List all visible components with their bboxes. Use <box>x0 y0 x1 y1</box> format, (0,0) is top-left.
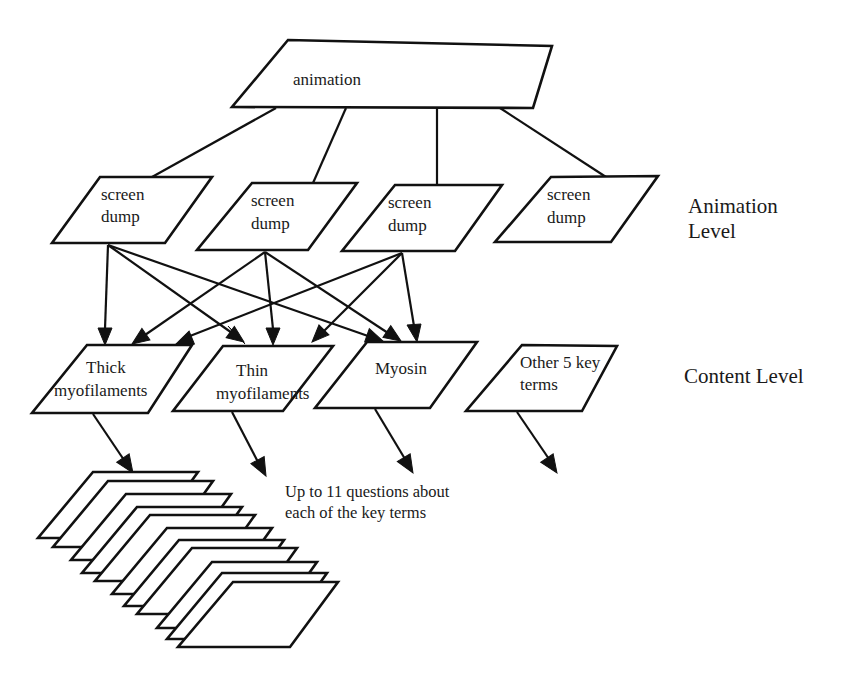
screen-dump-label-line2: dump <box>251 214 290 233</box>
question-arrows <box>93 409 563 480</box>
edge-sd3-thin <box>324 253 402 331</box>
content-node-label-line1: Thin <box>236 361 269 380</box>
edge-root-sd2 <box>313 108 346 183</box>
screen-dump-label-line2: dump <box>547 208 586 227</box>
arrowhead-icon <box>251 457 273 480</box>
content-node-thin-myofilaments[interactable]: Thin myofilaments <box>173 346 333 411</box>
edge-thick-questions <box>93 414 124 460</box>
root-node-label: animation <box>293 70 361 89</box>
content-node-other-key-terms[interactable]: Other 5 key terms <box>466 345 617 411</box>
screen-dump-label-line1: screen <box>101 185 145 204</box>
screen-dump-label-line1: screen <box>388 193 432 212</box>
content-node-label-line1: Thick <box>86 358 126 377</box>
content-node-shape <box>32 345 192 413</box>
edge-sd2-thin <box>265 252 273 329</box>
content-node-thick-myofilaments[interactable]: Thick myofilaments <box>32 345 192 413</box>
arrowhead-icon <box>226 326 248 347</box>
hierarchy-diagram: animation screen dump screen dump screen… <box>0 0 849 683</box>
questions-note: Up to 11 questions about each of the key… <box>285 482 450 522</box>
animation-level-nodes: screen dump screen dump screen dump scre… <box>52 176 658 251</box>
screen-dump-label-line1: screen <box>251 191 295 210</box>
content-node-label-line2: terms <box>520 375 558 394</box>
content-node-label-line1: Other 5 key <box>520 353 601 372</box>
arrowhead-icon <box>541 454 564 477</box>
root-connectors <box>152 108 606 185</box>
screen-dump-label-line2: dump <box>388 216 427 235</box>
animation-level-label-line1: Animation <box>688 194 778 218</box>
content-node-myosin[interactable]: Myosin <box>315 342 477 408</box>
screen-dump-node-3[interactable]: screen dump <box>342 185 502 251</box>
questions-note-line1: Up to 11 questions about <box>285 482 450 501</box>
arrowhead-icon <box>98 328 112 345</box>
cross-arrows <box>98 245 421 345</box>
edge-sd1-myosin <box>108 245 368 336</box>
screen-dump-label-line1: screen <box>547 185 591 204</box>
edge-sd1-thick <box>105 245 108 329</box>
edge-other-questions <box>517 412 549 459</box>
edge-root-sd1 <box>152 108 276 177</box>
content-node-label-line2: myofilaments <box>216 384 309 403</box>
edge-sd3-thick <box>190 253 402 336</box>
edge-sd3-myosin <box>402 253 414 326</box>
arrowhead-icon <box>407 324 421 342</box>
content-level-nodes: Thick myofilaments Thin myofilaments Myo… <box>32 342 617 413</box>
screen-dump-label-line2: dump <box>101 207 140 226</box>
questions-note-line2: each of the key terms <box>285 503 426 522</box>
edge-root-sd4 <box>500 108 606 177</box>
level-labels: Animation Level Content Level <box>684 194 804 388</box>
root-node-shape <box>232 40 552 108</box>
edge-myosin-questions <box>375 409 405 459</box>
animation-level-label-line2: Level <box>688 219 736 243</box>
root-node-animation[interactable]: animation <box>232 40 552 108</box>
content-node-label-line1: Myosin <box>375 359 427 378</box>
content-level-label: Content Level <box>684 364 804 388</box>
arrowhead-icon <box>397 454 419 477</box>
screen-dump-node-1[interactable]: screen dump <box>52 177 212 243</box>
edge-thin-questions <box>232 412 258 462</box>
screen-dump-node-2[interactable]: screen dump <box>197 183 357 250</box>
content-node-label-line2: myofilaments <box>54 381 147 400</box>
arrowhead-icon <box>266 328 280 345</box>
screen-dump-node-4[interactable]: screen dump <box>495 176 658 242</box>
